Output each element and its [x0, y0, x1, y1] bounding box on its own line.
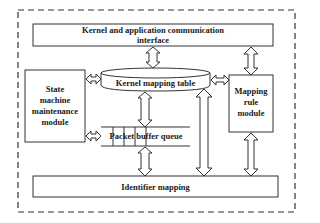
top-interface-line2: interface [33, 35, 273, 45]
arrow-state-queue [86, 131, 101, 141]
state-line-2: machine [25, 95, 85, 106]
state-line-3: maintenance [25, 106, 85, 117]
identifier-label: Identifier mapping [33, 182, 278, 192]
kernel-table-label: Kernel mapping table [101, 78, 210, 88]
arrow-state-kernel [86, 74, 101, 84]
mapping-rule-line-2: rule [229, 97, 273, 108]
arrow-interface-kernel [146, 47, 160, 68]
arrow-mapping-rule-identifier [244, 133, 258, 176]
packet-queue-label: Packet buffer queue [101, 131, 191, 141]
arrow-queue-identifier [138, 147, 152, 176]
mapping-rule-line-1: Mapping [229, 86, 273, 97]
top-interface-line1: Kernel and application communication [33, 25, 273, 35]
mapping-rule-line-3: module [229, 108, 273, 119]
arrow-kernel-mapping-rule [211, 75, 229, 85]
state-line-1: State [25, 84, 85, 95]
state-line-4: module [25, 117, 85, 128]
top-interface-label: Kernel and application communication int… [33, 25, 273, 45]
arrow-kernel-identifier [196, 89, 212, 176]
arrow-kernel-queue [138, 92, 152, 127]
state-module-label: State machine maintenance module [25, 84, 85, 128]
mapping-rule-label: Mapping rule module [229, 86, 273, 119]
arrow-interface-mapping-rule [244, 47, 258, 75]
